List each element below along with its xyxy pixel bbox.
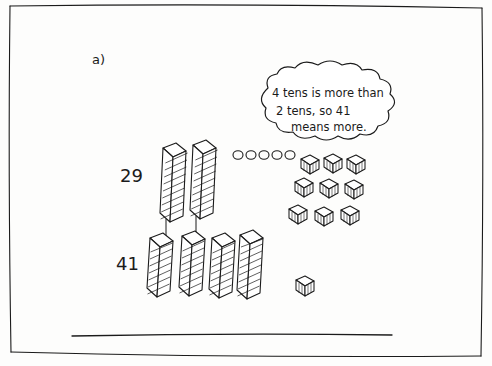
ones-cube <box>347 155 365 174</box>
ones-cube <box>295 178 313 197</box>
worksheet-page: 4 tens is more than 2 tens, so 41 means … <box>0 0 492 366</box>
number-labels: 29 41 a) <box>92 52 143 274</box>
ones-cube <box>289 205 307 224</box>
label-29: 29 <box>120 165 143 186</box>
tens-rod <box>160 143 188 222</box>
tens-rod <box>190 140 218 219</box>
page-border <box>9 5 483 357</box>
ones-cube-41 <box>296 276 314 296</box>
bubble-line-2: 2 tens, so 41 <box>276 104 350 118</box>
bottom-rule <box>72 334 392 336</box>
part-label: a) <box>92 52 105 67</box>
bubble-line-3: means more. <box>291 120 367 134</box>
tens-rod <box>147 233 173 297</box>
worksheet-drawing: 4 tens is more than 2 tens, so 41 means … <box>0 0 492 366</box>
tens-rod <box>237 230 263 299</box>
ones-cube <box>296 276 314 296</box>
tens-rods-41 <box>147 230 263 299</box>
tens-rod <box>179 231 205 296</box>
ones-cubes-29 <box>289 154 365 226</box>
ones-cube <box>315 207 333 226</box>
tens-rods-29 <box>160 140 218 238</box>
bubble-line-1: 4 tens is more than <box>272 86 384 100</box>
ones-cube <box>341 206 359 225</box>
tens-rod <box>209 233 235 298</box>
ones-cube <box>324 154 342 173</box>
label-41: 41 <box>116 253 139 274</box>
ones-cube <box>301 155 319 174</box>
ones-cube <box>345 180 363 199</box>
ones-cube <box>320 179 338 198</box>
loose-circles <box>233 151 295 159</box>
